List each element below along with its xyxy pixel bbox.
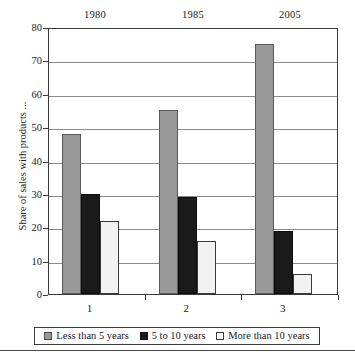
y-tick-label: 40 xyxy=(18,157,42,167)
y-tick-label: 70 xyxy=(18,56,42,66)
bar xyxy=(178,197,197,294)
bar-chart-figure: 1980 1985 2005 Share of sales with produ… xyxy=(0,0,355,358)
legend-item-less-than-5-years: Less than 5 years xyxy=(44,330,129,342)
gridline xyxy=(49,129,337,130)
x-tick-mark xyxy=(241,295,242,300)
legend-label-more-than-10-years: More than 10 years xyxy=(228,330,309,342)
bar xyxy=(62,134,81,294)
bottom-divider xyxy=(0,350,355,351)
legend-item-more-than-10-years: More than 10 years xyxy=(216,330,309,342)
bar xyxy=(100,221,119,294)
y-tick-mark xyxy=(43,295,48,296)
x-tick-label: 1 xyxy=(70,301,110,315)
y-tick-label: 60 xyxy=(18,90,42,100)
year-label-row: 1980 1985 2005 xyxy=(48,8,338,26)
legend-label-5-to-10-years: 5 to 10 years xyxy=(152,330,206,342)
year-label-1985: 1985 xyxy=(163,8,223,22)
bar xyxy=(293,274,312,294)
bar xyxy=(274,231,293,294)
legend-swatch-icon-less-than-5-years xyxy=(44,332,52,340)
plot-area xyxy=(48,28,338,295)
legend-swatch-icon-5-to-10-years xyxy=(140,332,148,340)
gridline xyxy=(49,96,337,97)
x-tick-label: 3 xyxy=(263,301,303,315)
bar xyxy=(197,241,216,294)
chart-legend: Less than 5 years 5 to 10 years More tha… xyxy=(34,327,320,345)
y-tick-label: 30 xyxy=(18,190,42,200)
y-tick-label: 80 xyxy=(18,23,42,33)
year-label-2005: 2005 xyxy=(260,8,320,22)
y-tick-label: 20 xyxy=(18,223,42,233)
legend-item-5-to-10-years: 5 to 10 years xyxy=(140,330,206,342)
y-tick-label: 50 xyxy=(18,123,42,133)
bar xyxy=(255,44,274,294)
bar xyxy=(159,110,178,294)
x-tick-label: 2 xyxy=(166,301,206,315)
bar xyxy=(81,194,100,294)
x-tick-mark xyxy=(338,295,339,300)
gridline xyxy=(49,163,337,164)
gridline xyxy=(49,62,337,63)
y-tick-label: 0 xyxy=(18,290,42,300)
year-label-1980: 1980 xyxy=(65,8,125,22)
legend-swatch-icon-more-than-10-years xyxy=(216,332,224,340)
y-tick-label: 10 xyxy=(18,257,42,267)
x-tick-mark xyxy=(145,295,146,300)
legend-label-less-than-5-years: Less than 5 years xyxy=(56,330,129,342)
